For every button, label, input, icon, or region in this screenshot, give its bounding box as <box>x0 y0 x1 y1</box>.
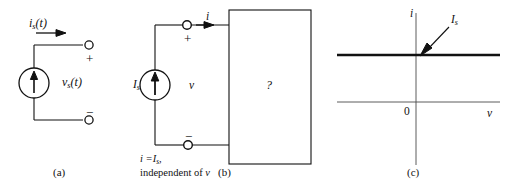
figure-ideal-current-source: is(t) vs(t) + − (a) <box>0 0 511 191</box>
axis-label-voltage-c: v <box>487 108 492 120</box>
annotation-arrow-c <box>420 27 449 56</box>
axis-label-current-c: i <box>410 8 413 20</box>
caption-c: (c) <box>407 166 419 178</box>
origin-label-c: 0 <box>404 106 410 118</box>
panel-c: i v 0 Is (c) <box>0 0 511 191</box>
curve-label-c: Is <box>451 14 458 27</box>
panel-c-plot <box>0 0 511 191</box>
